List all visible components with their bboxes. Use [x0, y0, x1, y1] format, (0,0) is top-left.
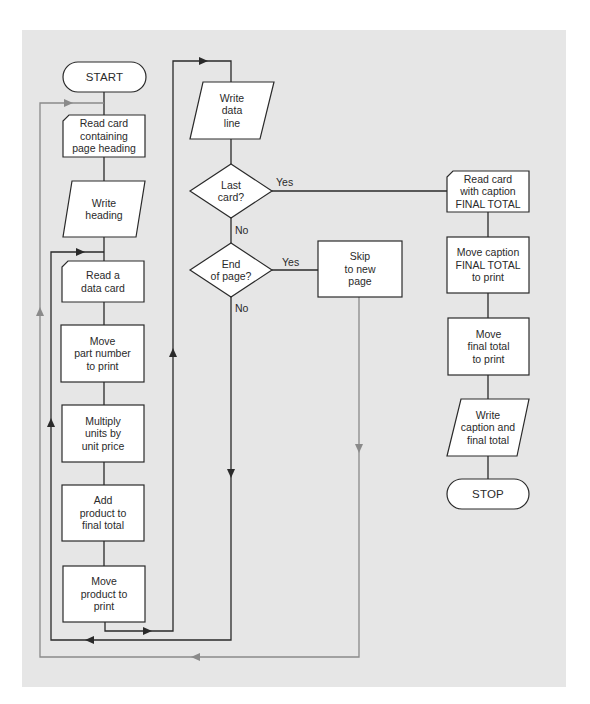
read-data-card[interactable]: [62, 261, 144, 302]
arrow-up-icon: [36, 307, 44, 316]
write-caption-io[interactable]: [447, 399, 529, 456]
arrow-right-icon: [64, 99, 73, 107]
move-product-process[interactable]: [63, 566, 145, 622]
multiply-process[interactable]: [62, 405, 144, 462]
arrow-left-icon: [85, 636, 94, 644]
arrow-down-icon: [355, 444, 363, 453]
skip-page-process[interactable]: [318, 241, 402, 297]
flowchart-canvas: [0, 0, 590, 704]
add-product-process[interactable]: [62, 485, 144, 541]
end-page-decision[interactable]: [190, 243, 272, 297]
move-caption-process[interactable]: [447, 237, 529, 293]
read-caption-card[interactable]: [447, 171, 529, 212]
arrow-right-icon: [143, 627, 152, 635]
stop-terminal[interactable]: [447, 479, 529, 509]
last-card-no-label: No: [235, 224, 248, 236]
arrow-up-icon: [169, 348, 177, 357]
end-page-yes-label: Yes: [282, 256, 299, 268]
start-terminal[interactable]: [63, 62, 146, 92]
end-page-no-label: No: [235, 302, 248, 314]
arrow-down-icon: [227, 469, 235, 478]
move-total-process[interactable]: [448, 318, 529, 375]
arrow-right-icon: [76, 248, 85, 256]
read-heading-card[interactable]: [63, 115, 145, 157]
write-data-io[interactable]: [190, 82, 274, 139]
write-heading-io[interactable]: [63, 181, 145, 237]
arrow-up-icon: [47, 418, 55, 427]
last-card-yes-label: Yes: [276, 176, 293, 188]
arrow-right-icon: [199, 57, 208, 65]
last-card-decision[interactable]: [190, 164, 272, 218]
arrow-left-icon: [191, 653, 200, 661]
move-part-process[interactable]: [61, 325, 144, 382]
